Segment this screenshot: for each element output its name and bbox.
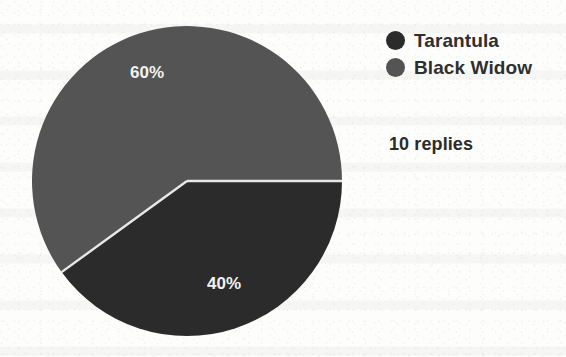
circle-swatch-icon-tarantula: [386, 31, 405, 50]
legend-label-black-widow: Black Widow: [414, 57, 532, 79]
replies-count-label: 10 replies: [389, 134, 473, 155]
circle-swatch-icon-black-widow: [386, 58, 405, 77]
poll-result-pie-chart-screenshot: 60% 40% Tarantula Black Widow 10 replies: [0, 0, 566, 357]
legend-label-tarantula: Tarantula: [414, 30, 499, 52]
pie-slice-label-black-widow: 60%: [130, 63, 164, 82]
legend-item-tarantula[interactable]: Tarantula: [386, 28, 561, 53]
pie-chart-svg: 60% 40%: [32, 26, 342, 337]
chart-legend: Tarantula Black Widow: [386, 28, 561, 82]
pie-slice-label-tarantula: 40%: [207, 274, 241, 293]
pie-chart: 60% 40%: [32, 26, 342, 337]
legend-item-black-widow[interactable]: Black Widow: [386, 55, 561, 80]
